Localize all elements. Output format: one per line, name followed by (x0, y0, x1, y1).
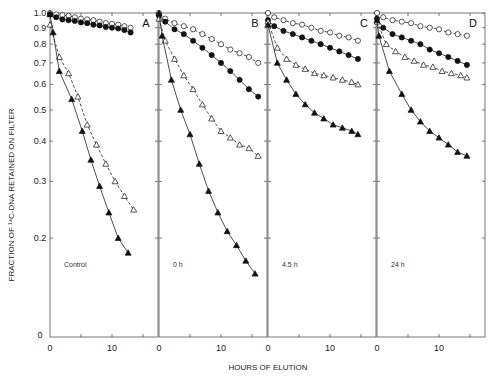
open-triangle-marker (448, 70, 454, 75)
filled-triangle-marker (215, 210, 221, 215)
filled-circle-marker (381, 25, 386, 30)
filled-triangle-marker (79, 128, 85, 133)
x-tick-label: 0 (374, 343, 379, 353)
open-circle-marker (172, 21, 177, 26)
open-circle-marker (409, 21, 414, 26)
filled-circle-marker (346, 53, 351, 58)
x-tick-label: 0 (265, 343, 270, 353)
data-series (47, 10, 470, 276)
open-triangle-marker (402, 54, 408, 59)
filled-triangle-marker (399, 91, 405, 96)
open-triangle-marker (75, 94, 81, 99)
filled-triangle-marker (178, 107, 184, 112)
open-circle-marker (455, 31, 460, 36)
filled-circle-marker (427, 47, 432, 52)
filled-circle-marker (300, 35, 305, 40)
filled-circle-marker (91, 22, 96, 27)
filled-circle-marker (436, 51, 441, 56)
condition-label: 24 h (391, 261, 405, 268)
filled-triangle-marker (97, 183, 103, 188)
filled-triangle-marker (50, 29, 56, 34)
filled-triangle-marker (436, 135, 442, 140)
open-triangle-marker (199, 101, 205, 106)
filled-triangle-marker (187, 131, 193, 136)
filled-circle-marker (446, 54, 451, 59)
filled-circle-marker (455, 58, 460, 63)
filled-circle-marker (209, 53, 214, 58)
y-tick-label: 1.0 (34, 8, 47, 18)
open-circle-marker (318, 28, 323, 33)
filled-circle-marker (66, 18, 71, 23)
filled-circle-marker (390, 31, 395, 36)
x-tick-label: 0 (156, 343, 161, 353)
y-tick-label: 0.4 (34, 136, 47, 146)
open-triangle-marker (430, 64, 436, 69)
x-axis-title: HOURS OF ELUTION (228, 363, 307, 372)
axes (50, 13, 485, 337)
open-circle-marker (246, 54, 251, 59)
open-circle-marker (256, 60, 261, 65)
filled-circle-marker (218, 60, 223, 65)
open-triangle-marker (274, 45, 280, 50)
open-circle-marker (390, 18, 395, 23)
open-circle-marker (337, 33, 342, 38)
filled-triangle-marker (349, 128, 355, 133)
filled-circle-marker (246, 87, 251, 92)
open-circle-marker (281, 18, 286, 23)
y-tick-label: 0.9 (34, 23, 47, 33)
y-tick-label: 0.2 (34, 233, 47, 243)
filled-triangle-marker (234, 242, 240, 247)
filled-circle-marker (103, 24, 108, 29)
y-tick-label: 0.3 (34, 176, 47, 186)
filled-circle-marker (116, 26, 121, 31)
y-axis-title: FRACTION OF ¹⁴C-DNA RETAINED ON FILTER (7, 108, 16, 281)
open-circle-marker (418, 24, 423, 29)
open-circle-marker (446, 30, 451, 35)
open-circle-marker (209, 36, 214, 41)
y-tick-label: 0.8 (34, 39, 47, 49)
filled-triangle-marker (355, 131, 361, 136)
open-circle-marker (218, 42, 223, 47)
open-triangle-marker (349, 79, 355, 84)
filled-triangle-marker (455, 149, 461, 154)
filled-triangle-marker (56, 68, 62, 73)
filled-circle-marker (54, 15, 59, 20)
open-circle-marker (346, 35, 351, 40)
open-triangle-marker (293, 62, 299, 67)
open-triangle-marker (421, 62, 427, 67)
open-triangle-marker (284, 56, 290, 61)
open-circle-marker (464, 33, 469, 38)
filled-circle-marker (60, 17, 65, 22)
open-triangle-marker (190, 86, 196, 91)
labels: 1.00.90.80.70.60.50.40.30.2010AControl01… (34, 8, 477, 353)
filled-triangle-marker (106, 210, 112, 215)
open-triangle-marker (172, 56, 178, 61)
filled-circle-marker (78, 20, 83, 25)
filled-triangle-marker (252, 271, 258, 276)
open-circle-marker (355, 38, 360, 43)
filled-triangle-marker (284, 77, 290, 82)
series-line-open-triangle (377, 22, 467, 78)
open-circle-marker (300, 22, 305, 27)
open-triangle-marker (393, 48, 399, 53)
open-triangle-marker (355, 81, 361, 86)
panel-letter: B (251, 17, 258, 29)
filled-triangle-marker (386, 68, 392, 73)
filled-circle-marker (409, 38, 414, 43)
open-circle-marker (381, 15, 386, 20)
y-tick-label: 0.7 (34, 58, 47, 68)
open-triangle-marker (103, 161, 109, 166)
open-triangle-marker (66, 70, 72, 75)
condition-label: Control (64, 261, 87, 268)
filled-triangle-marker (115, 235, 121, 240)
open-triangle-marker (131, 207, 137, 212)
open-triangle-marker (209, 116, 215, 121)
filled-triangle-marker (274, 60, 280, 65)
filled-circle-marker (327, 45, 332, 50)
series-line-open-triangle (50, 25, 134, 210)
filled-circle-marker (290, 31, 295, 36)
series-line-filled-triangle (50, 14, 128, 252)
open-circle-marker (427, 25, 432, 30)
filled-triangle-marker (196, 161, 202, 166)
x-tick-label: 10 (434, 343, 444, 353)
